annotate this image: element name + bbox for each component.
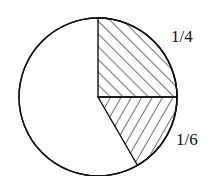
label-one-quarter: 1/4 bbox=[171, 27, 193, 46]
label-one-sixth: 1/6 bbox=[176, 130, 198, 149]
pie-chart: 1/4 1/6 bbox=[0, 0, 213, 176]
pie-slice-one-quarter bbox=[98, 18, 177, 97]
